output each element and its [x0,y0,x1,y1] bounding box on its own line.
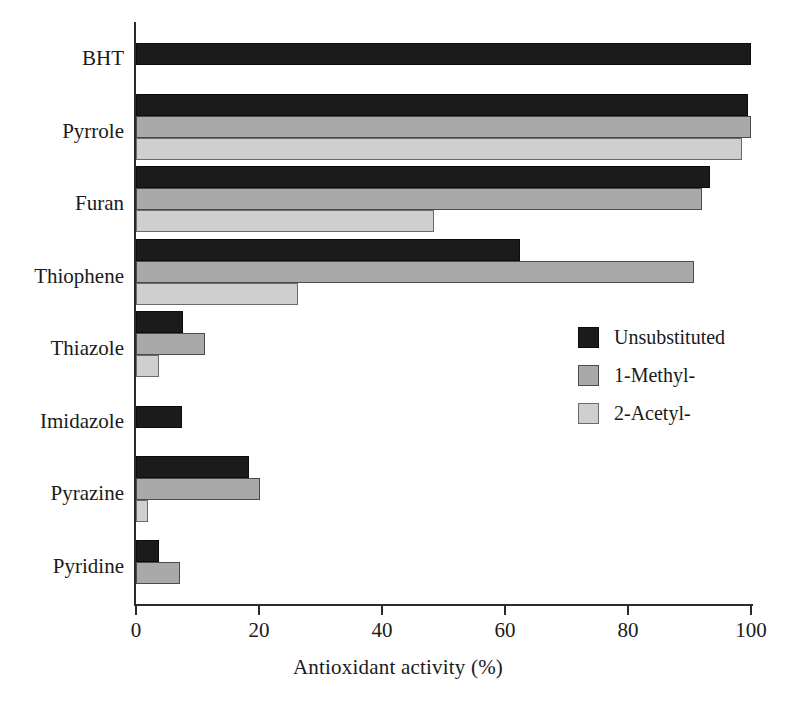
category-label: Imidazole [40,409,124,433]
legend-label: 2-Acetyl- [614,402,691,424]
category-label: BHT [82,46,124,70]
bar-group: Furan [136,167,751,240]
bar-pyrazine-series-0 [136,456,249,478]
legend-item: 2-Acetyl- [578,394,788,432]
chart-figure: 020406080100 BHTPyrroleFuranThiopheneThi… [0,0,796,718]
x-tick-label: 60 [495,617,516,643]
x-tick-mark [135,606,137,615]
legend-item: Unsubstituted [578,318,788,356]
bar-pyrazine-series-2 [136,500,148,522]
bar-imidazole-series-0 [136,406,182,428]
bar-pyrrole-series-1 [136,116,751,138]
legend-label: 1-Methyl- [614,364,695,386]
x-axis-spine [134,604,753,606]
bar-thiophene-series-0 [136,239,520,261]
bar-furan-series-0 [136,166,710,188]
bar-thiazole-series-0 [136,311,183,333]
bar-pyrrole-series-0 [136,94,748,116]
bar-pyrrole-series-2 [136,138,742,160]
bar-thiophene-series-1 [136,261,694,283]
category-label: Pyridine [53,554,124,578]
x-axis-title: Antioxidant activity (%) [0,655,796,680]
legend-label: Unsubstituted [614,326,725,348]
bar-furan-series-1 [136,188,702,210]
black-square-swatch [578,327,599,348]
x-tick-mark [381,606,383,615]
bar-furan-series-2 [136,210,434,232]
x-tick-mark [750,606,752,615]
x-tick-mark [627,606,629,615]
x-tick-mark [504,606,506,615]
bar-bht-series-0 [136,43,751,65]
category-label: Furan [75,191,124,215]
bar-group: Pyrrole [136,95,751,168]
light-gray-square-swatch [578,403,599,424]
bar-pyrazine-series-1 [136,478,260,500]
bar-group: Pyridine [136,530,751,603]
bar-pyridine-series-1 [136,562,180,584]
category-label: Pyrazine [51,481,124,505]
x-tick-label: 20 [249,617,270,643]
category-label: Pyrrole [62,119,124,143]
x-tick-label: 40 [372,617,393,643]
x-tick-label: 0 [131,617,142,643]
x-tick-label: 80 [618,617,639,643]
bar-thiazole-series-1 [136,333,205,355]
bar-group: BHT [136,22,751,95]
category-label: Thiazole [51,336,124,360]
mid-gray-square-swatch [578,365,599,386]
chart-legend: Unsubstituted1-Methyl-2-Acetyl- [578,318,788,432]
category-label: Thiophene [34,264,124,288]
x-tick-label: 100 [735,617,767,643]
legend-item: 1-Methyl- [578,356,788,394]
bar-pyridine-series-0 [136,540,159,562]
bar-thiazole-series-2 [136,355,159,377]
bar-group: Thiophene [136,240,751,313]
bar-group: Pyrazine [136,457,751,530]
x-tick-mark [258,606,260,615]
bar-thiophene-series-2 [136,283,298,305]
